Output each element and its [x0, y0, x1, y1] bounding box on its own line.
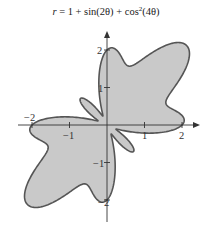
y-axis-arrow-icon [104, 31, 110, 38]
x-tick-label-neg1: −1 [63, 130, 74, 141]
y-tick-label-1: 1 [98, 83, 103, 94]
x-tick-label-2: 2 [179, 130, 184, 141]
y-tick-label-neg2: −2 [98, 197, 109, 208]
x-tick-label-neg2: −2 [24, 112, 35, 123]
x-axis-arrow-icon [193, 122, 200, 128]
y-tick-label-neg1: −1 [93, 158, 104, 169]
y-tick-label-2: 2 [97, 45, 102, 56]
polar-plot: −2 −1 1 2 2 1 −1 −2 [0, 0, 212, 233]
x-tick-label-1: 1 [142, 130, 147, 141]
